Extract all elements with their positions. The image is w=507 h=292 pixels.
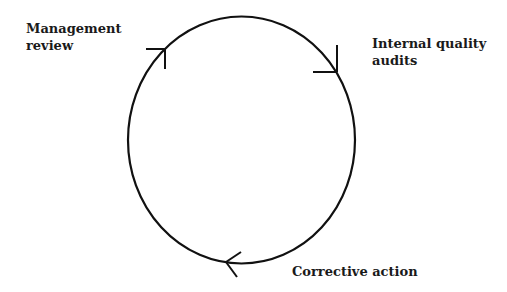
node-label-line: Internal quality xyxy=(372,35,486,52)
node-label-line: Corrective action xyxy=(292,263,418,280)
cycle-ellipse xyxy=(128,17,355,264)
node-internal-quality-audits: Internal quality audits xyxy=(372,35,486,69)
node-corrective-action: Corrective action xyxy=(292,263,418,280)
node-management-review: Management review xyxy=(26,20,122,54)
node-label-line: review xyxy=(26,37,122,54)
node-label-line: audits xyxy=(372,52,486,69)
node-label-line: Management xyxy=(26,20,122,37)
